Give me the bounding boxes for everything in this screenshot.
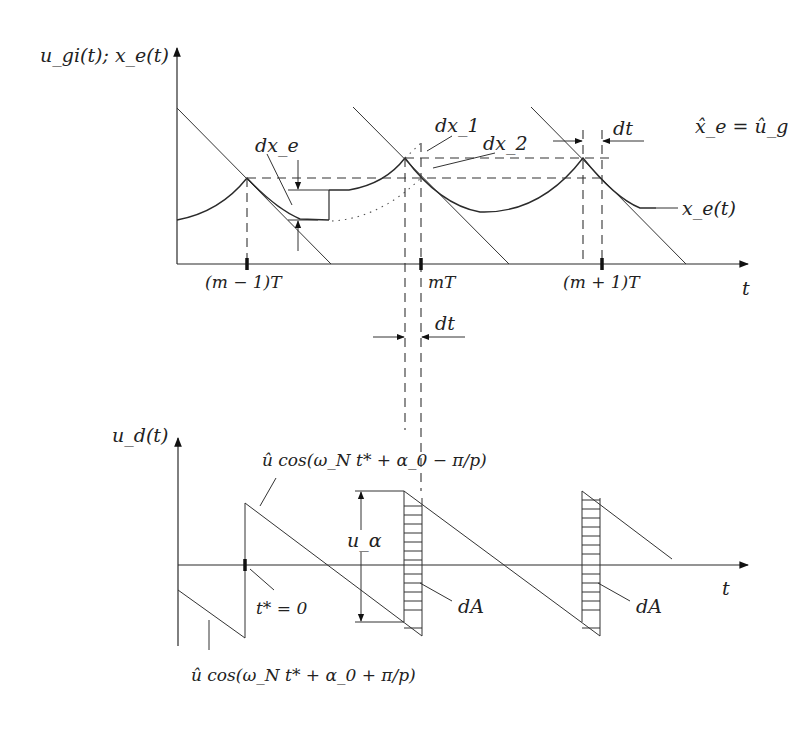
- dx2-label: dx_2: [483, 132, 527, 155]
- xe-dotted-continuation: [332, 178, 421, 221]
- top-y-axis-label: u_gi(t); x_e(t): [40, 44, 169, 67]
- dA-2-label: dA: [636, 595, 662, 617]
- hatch-region-2: [582, 498, 600, 636]
- t-star-leader: [250, 569, 274, 590]
- dxe-leader: [267, 154, 292, 205]
- dA-2-leader: [598, 583, 630, 601]
- xe-curve-segment-1: [177, 178, 329, 220]
- dx1-dotted: [405, 143, 421, 158]
- hatch-region-1: [404, 498, 422, 636]
- bottom-y-axis-label: u_d(t): [112, 424, 168, 447]
- ualpha-label: u_α: [347, 529, 382, 552]
- tick-label-mT: mT: [428, 272, 457, 292]
- top-x-axis-label: t: [742, 277, 750, 299]
- t-star-label: t* = 0: [256, 598, 307, 618]
- dA-1-leader: [420, 583, 452, 601]
- dA-1-label: dA: [458, 595, 484, 617]
- saw-seg-0: [178, 590, 245, 638]
- lower-cos-label: û cos(ω_N t* + α_0 + π/p): [191, 665, 416, 685]
- bottom-x-axis-label: t: [722, 577, 730, 599]
- saw-seg-3: [582, 491, 672, 559]
- tick-label-m-1: (m − 1)T: [205, 272, 283, 292]
- xe-curve-segment-2: [329, 158, 656, 212]
- dx1-leader: [427, 136, 452, 151]
- diagram-canvas: u_gi(t); x_e(t) t (m − 1)T mT (m + 1)T d…: [0, 0, 806, 733]
- tick-label-m1T: (m + 1)T: [563, 272, 641, 292]
- equality-label: x̂_e = û_g: [695, 115, 788, 138]
- dx2-leader: [433, 153, 495, 168]
- upper-cos-leader: [260, 478, 276, 506]
- dx1-label: dx_1: [435, 114, 479, 137]
- sawtooth-line-2: [353, 107, 509, 264]
- dt-top-label: dt: [613, 117, 633, 139]
- dxe-label: dx_e: [255, 134, 299, 157]
- saw-seg-2: [404, 491, 600, 636]
- xe-curve-label: x_e(t): [682, 197, 736, 220]
- dt-mid-label: dt: [435, 312, 455, 334]
- upper-cos-label: û cos(ω_N t* + α_0 − π/p): [262, 450, 487, 470]
